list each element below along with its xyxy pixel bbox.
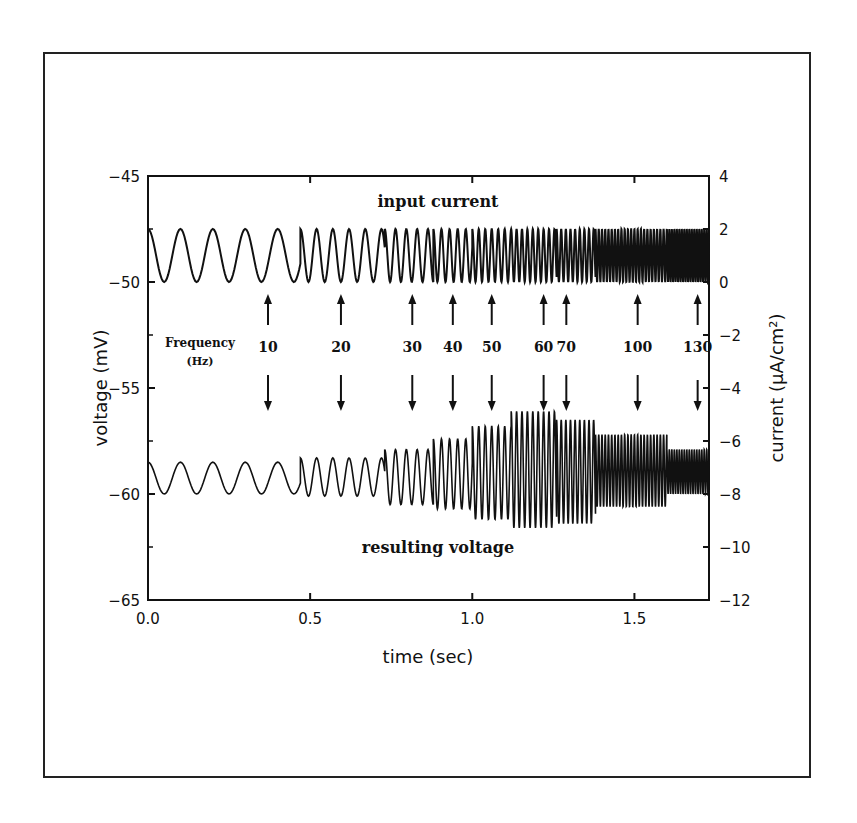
y-right-tick-label: −12 <box>719 592 751 610</box>
down-arrow-head-icon <box>264 401 272 411</box>
up-arrow-head-icon <box>634 294 642 304</box>
frequency-unit-label: (Hz) <box>186 355 213 368</box>
frequency-marker-60: 60 <box>534 294 554 411</box>
right-y-axis: 420−2−4−6−8−10−12 <box>703 168 751 610</box>
down-arrow-head-icon <box>694 401 702 411</box>
frequency-value: 10 <box>258 339 278 355</box>
frequency-value: 20 <box>331 339 351 355</box>
left-y-axis-title: voltage (mV) <box>90 330 111 447</box>
down-arrow-head-icon <box>562 401 570 411</box>
frequency-value: 40 <box>443 339 463 355</box>
down-arrow-head-icon <box>337 401 345 411</box>
up-arrow-head-icon <box>488 294 496 304</box>
frequency-value: 100 <box>623 339 652 355</box>
x-tick-label: 1.0 <box>460 610 484 628</box>
frequency-value: 50 <box>482 339 502 355</box>
y-right-tick-label: 2 <box>719 221 729 239</box>
traces <box>148 229 709 528</box>
down-arrow-head-icon <box>540 401 548 411</box>
y-right-tick-label: −8 <box>719 486 741 504</box>
frequency-marker-40: 40 <box>443 294 463 411</box>
frequency-value: 30 <box>403 339 423 355</box>
up-arrow-head-icon <box>562 294 570 304</box>
frequency-marker-50: 50 <box>482 294 502 411</box>
frequency-value: 60 <box>534 339 554 355</box>
resulting-voltage-label: resulting voltage <box>362 538 514 557</box>
y-right-tick-label: 0 <box>719 274 729 292</box>
y-right-tick-label: −6 <box>719 433 741 451</box>
up-arrow-head-icon <box>408 294 416 304</box>
y-right-tick-label: −10 <box>719 539 751 557</box>
down-arrow-head-icon <box>488 401 496 411</box>
y-left-tick-label: −50 <box>108 274 140 292</box>
y-left-tick-label: −65 <box>108 592 140 610</box>
y-left-tick-label: −60 <box>108 486 140 504</box>
down-arrow-head-icon <box>634 401 642 411</box>
down-arrow-head-icon <box>408 401 416 411</box>
x-tick-label: 0.5 <box>298 610 322 628</box>
resulting-voltage-trace <box>148 411 709 528</box>
right-y-axis-title: current (μA/cm²) <box>766 313 787 462</box>
input-current-trace <box>148 229 709 282</box>
y-right-tick-label: −4 <box>719 380 741 398</box>
frequency-marker-70: 70 <box>557 294 577 411</box>
frequency-marker-100: 100 <box>623 294 652 411</box>
x-tick-label: 1.5 <box>622 610 646 628</box>
frequency-marker-20: 20 <box>331 294 351 411</box>
frequency-marker-30: 30 <box>403 294 423 411</box>
up-arrow-head-icon <box>540 294 548 304</box>
chart: 0.00.51.01.5 −45−50−55−60−65 420−2−4−6−8… <box>0 0 857 823</box>
up-arrow-head-icon <box>449 294 457 304</box>
up-arrow-head-icon <box>694 294 702 304</box>
up-arrow-head-icon <box>264 294 272 304</box>
frequency-label: Frequency <box>165 336 236 350</box>
frequency-value: 70 <box>557 339 577 355</box>
y-left-tick-label: −45 <box>108 168 140 186</box>
input-current-label: input current <box>378 192 500 211</box>
y-left-tick-label: −55 <box>108 380 140 398</box>
y-right-tick-label: −2 <box>719 327 741 345</box>
x-tick-label: 0.0 <box>136 610 160 628</box>
frequency-value: 130 <box>683 339 712 355</box>
frequency-markers: 10203040506070100130 <box>258 294 712 411</box>
x-axis-title: time (sec) <box>383 646 474 667</box>
down-arrow-head-icon <box>449 401 457 411</box>
y-right-tick-label: 4 <box>719 168 729 186</box>
up-arrow-head-icon <box>337 294 345 304</box>
frequency-marker-10: 10 <box>258 294 278 411</box>
